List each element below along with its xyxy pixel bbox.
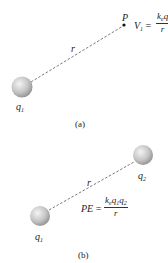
charge-sphere-q2-b [133, 145, 153, 165]
point-p-dot [122, 23, 125, 26]
distance-label-b: r [87, 178, 91, 188]
point-p-label: P [122, 13, 128, 23]
potential-equation-lhs: V1 = [134, 21, 151, 32]
charge-sphere-q1-b [30, 206, 50, 226]
charge-sphere-q1-a [12, 77, 33, 98]
distance-label-a: r [71, 44, 75, 54]
caption-a: (a) [75, 120, 85, 129]
potential-energy-equation-lhs: PE = [81, 204, 101, 214]
potential-equation-fraction: keq r [156, 12, 168, 34]
charge-label-q2-b: q2 [138, 171, 146, 182]
distance-line-a [31, 26, 123, 82]
caption-b: (b) [78, 251, 89, 260]
charge-label-q1-b: q1 [35, 232, 43, 243]
potential-energy-equation-fraction: keq1q2 r [104, 196, 128, 218]
diagram-canvas [0, 0, 168, 263]
charge-label-q1-a: q1 [16, 102, 24, 113]
